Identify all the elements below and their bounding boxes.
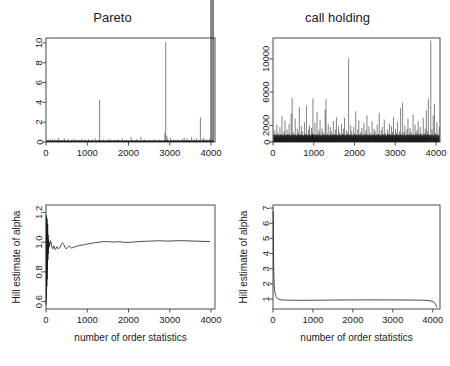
y-tick-label: 0 [261, 139, 272, 144]
x-tick-label: 2000 [118, 314, 139, 325]
panel-pareto: Pareto 010002000300040000246810 [0, 0, 225, 183]
y-tick-label: 4 [34, 100, 45, 105]
y-tick-label: 0.6 [34, 295, 45, 308]
panel-hill-pareto: 010002000300040000.60.81.01.2number of o… [0, 183, 225, 366]
y-tick-label: 6 [34, 80, 45, 85]
y-tick-label: 7 [261, 205, 272, 210]
x-tick-label: 4000 [422, 314, 443, 325]
y-tick-label: 2 [34, 120, 45, 125]
y-tick-label: 10 [34, 38, 45, 49]
x-tick-label: 4000 [200, 314, 221, 325]
panel-title-pareto: Pareto [0, 10, 225, 25]
x-tick-label: 0 [270, 314, 275, 325]
y-tick-label: 10000 [261, 46, 272, 72]
x-tick-label: 1000 [302, 314, 323, 325]
y-tick-label: 0.8 [34, 265, 45, 278]
x-tick-label: 3000 [159, 147, 180, 158]
x-axis-title: number of order statistics [74, 332, 186, 343]
x-tick-label: 4000 [426, 147, 447, 158]
plot-hill-call-holding: 010002000300040001234567number of order … [225, 183, 450, 366]
y-tick-label: 6 [261, 221, 272, 226]
x-tick-label: 3000 [159, 314, 180, 325]
x-tick-label: 2000 [118, 147, 139, 158]
plot-frame [46, 205, 215, 309]
y-tick-label: 0 [34, 139, 45, 144]
line-series [273, 211, 436, 307]
y-tick-label: 1.2 [34, 206, 45, 219]
panel-hill-call-holding: 010002000300040001234567number of order … [225, 183, 450, 366]
plot-hill-pareto: 010002000300040000.60.81.01.2number of o… [0, 183, 225, 366]
y-tick-label: 3 [261, 266, 272, 271]
x-tick-label: 1000 [77, 314, 98, 325]
panel-title-call-holding: call holding [225, 10, 450, 25]
figure-panel-grid: Pareto 010002000300040000246810 call hol… [0, 0, 450, 366]
y-tick-label: 4 [261, 251, 272, 256]
x-tick-label: 0 [43, 314, 48, 325]
x-tick-label: 0 [43, 147, 48, 158]
x-tick-label: 1000 [77, 147, 98, 158]
spike-series [274, 40, 439, 142]
y-axis-title: Hill estimate of alpha [11, 210, 22, 303]
x-tick-label: 1000 [303, 147, 324, 158]
x-tick-label: 0 [270, 147, 275, 158]
line-series [46, 215, 210, 304]
x-axis-title: number of order statistics [300, 332, 412, 343]
x-tick-label: 4000 [200, 147, 221, 158]
x-tick-label: 3000 [385, 147, 406, 158]
x-tick-label: 2000 [344, 147, 365, 158]
x-tick-label: 2000 [342, 314, 363, 325]
y-tick-label: 2 [261, 281, 272, 286]
x-tick-label: 3000 [382, 314, 403, 325]
y-tick-label: 6000 [261, 82, 272, 103]
y-tick-label: 5 [261, 236, 272, 241]
y-tick-label: 8 [34, 60, 45, 65]
y-tick-label: 1.0 [34, 236, 45, 249]
plot-frame [273, 205, 440, 309]
y-tick-label: 1 [261, 296, 272, 301]
plot-call-holding: 0100020003000400002000600010000 [225, 0, 450, 183]
y-tick-label: 2000 [261, 115, 272, 136]
panel-call-holding: call holding 010002000300040000200060001… [225, 0, 450, 183]
plot-frame [46, 38, 215, 142]
plot-pareto: 010002000300040000246810 [0, 0, 225, 183]
y-axis-title: Hill estimate of alpha [238, 210, 249, 303]
